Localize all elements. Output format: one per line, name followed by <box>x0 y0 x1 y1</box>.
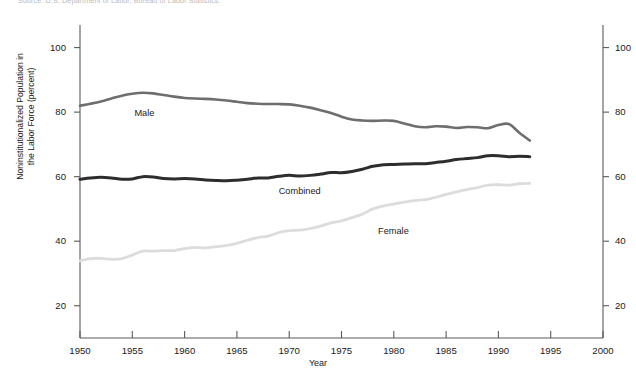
y-tick-label-right: 100 <box>615 42 636 53</box>
y-tick-label-right: 60 <box>615 171 636 182</box>
y-tick-label-right: 20 <box>615 300 636 311</box>
x-tick-label: 1955 <box>112 345 152 356</box>
x-tick-label: 1970 <box>269 345 309 356</box>
series-label-male: Male <box>134 108 154 118</box>
x-tick-label: 2000 <box>583 345 623 356</box>
x-tick-label: 1960 <box>165 345 205 356</box>
y-tick-label-left: 40 <box>32 235 66 246</box>
x-tick-label: 1980 <box>374 345 414 356</box>
x-tick-label: 1995 <box>531 345 571 356</box>
y-tick-label-right: 80 <box>615 106 636 117</box>
x-tick-label: 1950 <box>60 345 100 356</box>
y-tick-label-left: 20 <box>32 300 66 311</box>
series-label-combined: Combined <box>279 186 321 196</box>
y-tick-label-left: 80 <box>32 106 66 117</box>
y-tick-label-right: 40 <box>615 235 636 246</box>
x-tick-label: 1990 <box>478 345 518 356</box>
labor-force-participation-chart: Source: U.S. Department of Labor, Bureau… <box>0 0 636 383</box>
x-tick-label: 1965 <box>217 345 257 356</box>
x-tick-label: 1975 <box>322 345 362 356</box>
series-line-combined <box>80 155 530 180</box>
y-tick-label-left: 60 <box>32 171 66 182</box>
y-tick-label-left: 100 <box>32 42 66 53</box>
series-label-female: Female <box>378 226 409 236</box>
x-tick-label: 1985 <box>426 345 466 356</box>
